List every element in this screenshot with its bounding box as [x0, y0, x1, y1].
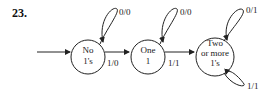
state-label: 1's — [210, 58, 220, 68]
transition-label: 1/1 — [247, 81, 259, 91]
transition-label: 0/0 — [180, 7, 192, 17]
state-label: 1's — [83, 56, 93, 66]
self-loop-s1 — [160, 8, 177, 44]
state-two-or-more: Two or more 1's — [196, 38, 234, 76]
state-label: No — [83, 45, 94, 55]
state-no-ones: No 1's — [71, 40, 105, 74]
state-label: 1 — [146, 56, 151, 66]
state-label: Two — [207, 38, 223, 48]
state-diagram: No 1's 0/0 1/0 One 1 0/0 1/1 Two or more… — [0, 0, 272, 92]
self-loop-s2-top — [224, 9, 243, 41]
self-loop-s2-bottom — [224, 71, 244, 86]
state-one-one: One 1 — [131, 40, 165, 74]
state-label: One — [141, 45, 156, 55]
state-label: or more — [201, 48, 229, 58]
self-loop-s0 — [100, 8, 117, 44]
transition-label: 1/1 — [168, 58, 180, 68]
transition-label: 0/1 — [246, 5, 258, 15]
transition-label: 1/0 — [107, 58, 119, 68]
transition-label: 0/0 — [119, 7, 131, 17]
